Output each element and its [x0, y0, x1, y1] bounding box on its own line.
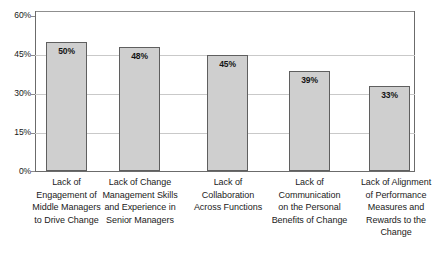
y-tick-label: 60% [3, 11, 31, 20]
y-tick-label: 15% [3, 128, 31, 137]
y-tick-mark [31, 94, 35, 95]
category-label-line: Lack of [265, 176, 354, 189]
category-label-line: Across Functions [186, 201, 270, 214]
category-label-line: of Performance [349, 189, 432, 202]
category-label: Lack of Alignment of Performance Measure… [349, 176, 432, 239]
category-label-line: Senior Managers [93, 214, 187, 227]
category-label-line: Lack of [186, 176, 270, 189]
bar: 33% [369, 86, 410, 171]
y-tick-label: 0% [3, 167, 31, 176]
category-label-line: Management Skills [93, 189, 187, 202]
bar: 39% [289, 71, 330, 171]
bar: 50% [46, 42, 87, 171]
category-label-line: Rewards to the [349, 214, 432, 227]
plot-frame-left [35, 11, 36, 172]
category-label: Lack of Communication on the Personal Be… [265, 176, 354, 226]
plot-frame-right [414, 11, 415, 172]
category-label-line: Lack of Change [93, 176, 187, 189]
category-label: Lack of Collaboration Across Functions [186, 176, 270, 214]
y-tick-mark [31, 55, 35, 56]
bar-value-label: 50% [47, 46, 86, 56]
y-tick-mark [31, 133, 35, 134]
category-label: Lack of Change Management Skills and Exp… [93, 176, 187, 226]
category-label-line: on the Personal [265, 201, 354, 214]
bar: 48% [119, 47, 160, 171]
y-tick-mark [31, 16, 35, 17]
category-label-line: Collaboration [186, 189, 270, 202]
bar-value-label: 33% [370, 90, 409, 100]
bar-value-label: 48% [120, 51, 159, 61]
category-label-line: Benefits of Change [265, 214, 354, 227]
category-label-line: Lack of Alignment [349, 176, 432, 189]
x-axis-category-labels: Lack of Engagement of Middle Managers to… [35, 176, 415, 248]
y-tick-label: 45% [3, 50, 31, 59]
bar-value-label: 39% [290, 75, 329, 85]
category-label-line: Measures and [349, 201, 432, 214]
plot-frame-top [35, 11, 415, 12]
y-tick-mark [31, 171, 35, 172]
bar: 45% [207, 55, 248, 171]
category-label-line: Communication [265, 189, 354, 202]
bar-value-label: 45% [208, 59, 247, 69]
category-label-line: and Experience in [93, 201, 187, 214]
bar-chart: 60% 45% 30% 15% 0% 50% 48% 45% 39% [0, 0, 432, 253]
x-axis-line [35, 171, 415, 172]
y-tick-label: 30% [3, 89, 31, 98]
category-label-line: Change [349, 226, 432, 239]
plot-area: 50% 48% 45% 39% 33% [35, 11, 415, 172]
